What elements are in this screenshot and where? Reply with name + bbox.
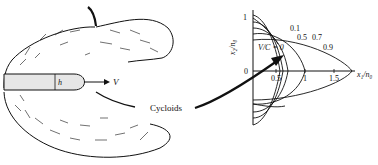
arrow-head-icon bbox=[104, 79, 110, 85]
velocity-label: V bbox=[113, 77, 120, 87]
velocity-arrow: V bbox=[85, 77, 120, 87]
curve-label-v0: V/C = 0 bbox=[258, 43, 284, 52]
cycloids-label: Cycloids bbox=[150, 103, 182, 113]
curve-label-0.9: 0.9 bbox=[323, 43, 333, 52]
figure-canvas: h V Cycloids 1 0 0.5 bbox=[0, 0, 378, 165]
y-axis-label: x₂/n₀ bbox=[228, 39, 237, 56]
height-label: h bbox=[58, 78, 62, 87]
x-tick-1: 1 bbox=[303, 74, 307, 83]
y-tick-1: 1 bbox=[243, 13, 247, 22]
curve-label-0.1: 0.1 bbox=[290, 24, 300, 33]
x-tick-0.5: 0.5 bbox=[271, 74, 281, 83]
callout-line bbox=[96, 92, 135, 107]
curve-label-0.7: 0.7 bbox=[312, 33, 322, 42]
channel: h bbox=[4, 74, 85, 90]
x-axis-label: x₁/n₀ bbox=[356, 70, 373, 79]
cycloid-chart: 1 0 0.5 1 1.5 x₁/n₀ x₂/n₀ V/C = 0 0.1 0.… bbox=[228, 10, 373, 125]
x-tick-1.5: 1.5 bbox=[329, 74, 339, 83]
channel-outline bbox=[4, 74, 85, 90]
curve-label-0.5: 0.5 bbox=[297, 33, 307, 42]
cycloid-curves bbox=[253, 15, 352, 125]
y-tick-0: 0 bbox=[244, 67, 248, 76]
apple-stem bbox=[88, 7, 96, 26]
